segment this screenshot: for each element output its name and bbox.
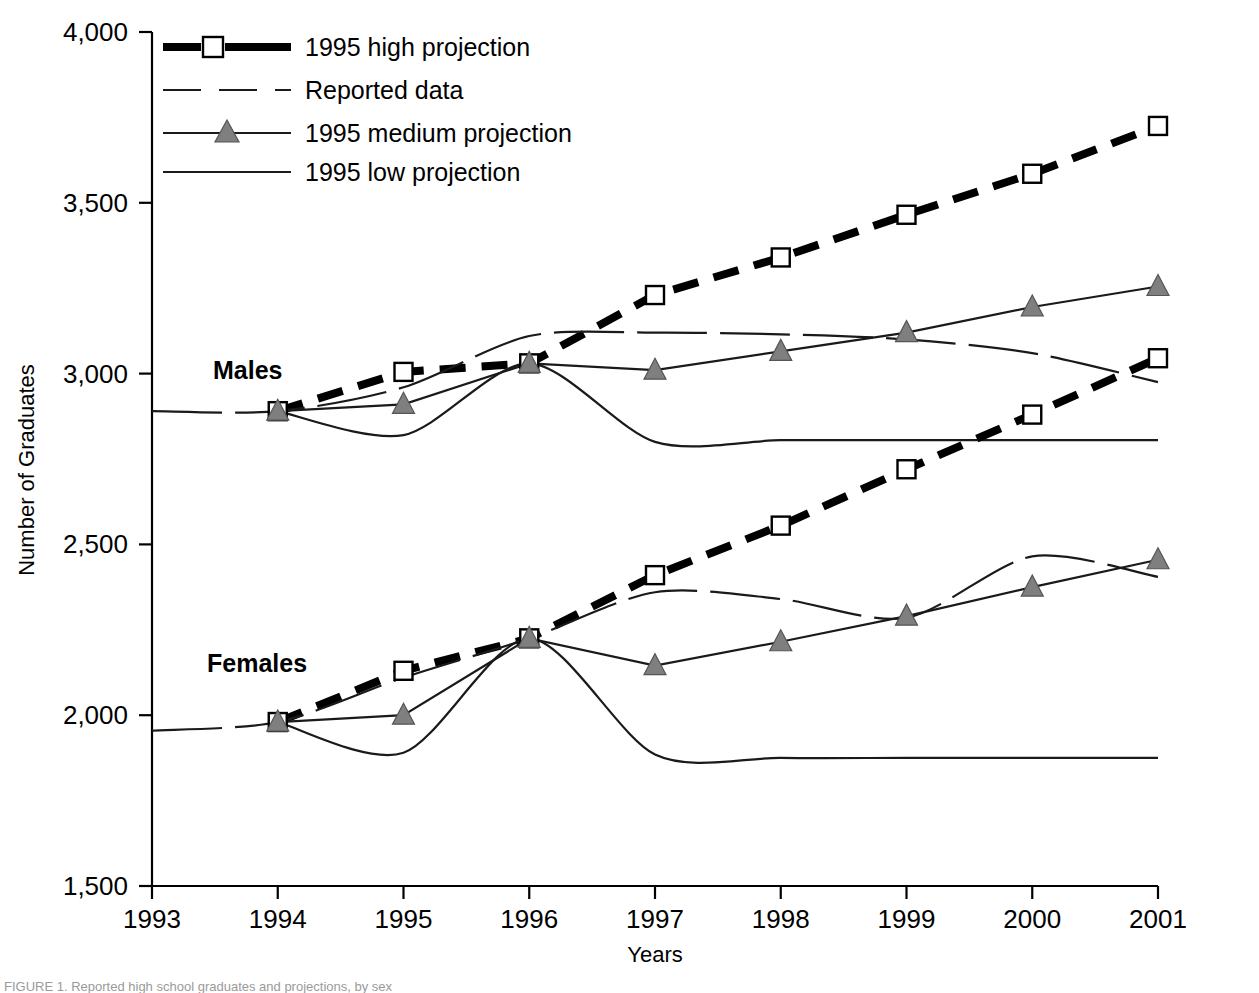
square-marker-icon xyxy=(898,206,916,224)
group-label-females: Females xyxy=(207,649,307,677)
chart-legend: 1995 high projectionReported data1995 me… xyxy=(163,33,572,186)
square-marker-icon xyxy=(1023,165,1041,183)
x-tick-label: 1998 xyxy=(752,904,810,934)
triangle-marker-icon xyxy=(393,703,415,724)
y-tick-label: 1,500 xyxy=(63,871,128,901)
y-tick-label: 2,500 xyxy=(63,529,128,559)
legend-item-low-projection: 1995 low projection xyxy=(163,158,520,186)
y-tick-marks xyxy=(139,32,152,886)
y-tick-label: 3,000 xyxy=(63,359,128,389)
axis-group xyxy=(139,32,1158,899)
square-marker-icon xyxy=(772,517,790,535)
square-marker-icon xyxy=(1149,349,1167,367)
x-tick-label: 1996 xyxy=(500,904,558,934)
square-marker-icon xyxy=(898,460,916,478)
y-tick-label: 2,000 xyxy=(63,700,128,730)
square-marker-icon xyxy=(646,566,664,584)
y-tick-label: 3,500 xyxy=(63,188,128,218)
x-axis-title: Years xyxy=(627,942,682,967)
square-icon xyxy=(203,37,223,57)
square-marker-icon xyxy=(646,286,664,304)
legend-label: 1995 medium projection xyxy=(305,119,572,147)
square-marker-icon xyxy=(1023,406,1041,424)
marker-layer xyxy=(267,117,1169,731)
triangle-marker-icon xyxy=(1147,548,1169,569)
y-tick-label: 4,000 xyxy=(63,17,128,47)
square-marker-icon xyxy=(1149,117,1167,135)
x-tick-label: 1993 xyxy=(123,904,181,934)
square-marker-icon xyxy=(395,662,413,680)
legend-item-high-projection: 1995 high projection xyxy=(163,33,530,61)
square-marker-icon xyxy=(395,363,413,381)
x-tick-label: 1999 xyxy=(878,904,936,934)
x-tick-label: 1994 xyxy=(249,904,307,934)
x-tick-labels: 199319941995199619971998199920002001 xyxy=(123,904,1187,934)
series-line-males-medium-projection xyxy=(278,286,1158,411)
figure-container: 4,0003,5003,0002,5002,0001,500 199319941… xyxy=(0,0,1259,993)
x-tick-label: 1997 xyxy=(626,904,684,934)
x-tick-marks xyxy=(152,886,1158,899)
figure-caption: FIGURE 1. Reported high school graduates… xyxy=(4,979,393,993)
legend-label: Reported data xyxy=(305,76,464,104)
y-axis-title: Number of Graduates xyxy=(14,364,39,576)
series-line-females-medium-projection xyxy=(278,560,1158,722)
triangle-marker-icon xyxy=(1147,274,1169,295)
legend-item-medium-projection: 1995 medium projection xyxy=(163,119,572,147)
legend-label: 1995 low projection xyxy=(305,158,520,186)
series-line-females-low-projection xyxy=(278,638,1158,763)
y-tick-labels: 4,0003,5003,0002,5002,0001,500 xyxy=(63,17,128,901)
x-tick-label: 2001 xyxy=(1129,904,1187,934)
line-chart: 4,0003,5003,0002,5002,0001,500 199319941… xyxy=(0,0,1259,993)
triangle-icon xyxy=(215,120,239,142)
x-tick-label: 1995 xyxy=(375,904,433,934)
legend-label: 1995 high projection xyxy=(305,33,530,61)
x-tick-label: 2000 xyxy=(1003,904,1061,934)
square-marker-icon xyxy=(772,248,790,266)
legend-item-reported-data: Reported data xyxy=(163,76,464,104)
group-label-males: Males xyxy=(213,356,282,384)
